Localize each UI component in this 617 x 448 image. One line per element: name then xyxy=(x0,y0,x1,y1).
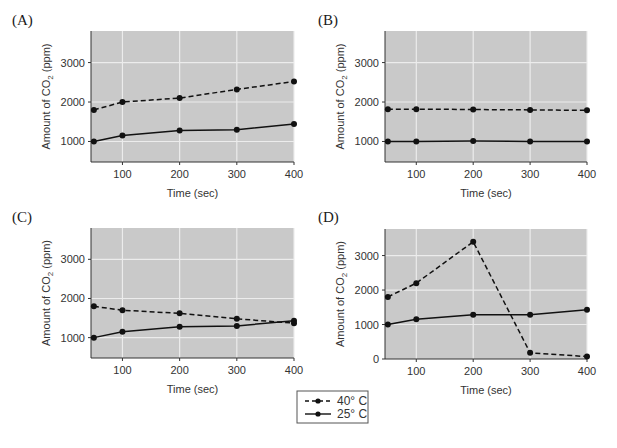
x-axis-label: Time (sec) xyxy=(460,187,512,199)
y-tick-label: 1000 xyxy=(61,135,85,147)
data-point xyxy=(91,303,97,309)
y-tick-label: 2000 xyxy=(61,96,85,108)
data-point xyxy=(413,316,419,322)
chart-panel-d: (D)1002003004000100020003000Time (sec)Am… xyxy=(318,209,596,396)
data-point xyxy=(119,329,125,335)
y-tick-label: 0 xyxy=(373,353,379,365)
data-point xyxy=(177,324,183,330)
data-point xyxy=(234,323,240,329)
data-point xyxy=(413,280,419,286)
x-tick-label: 200 xyxy=(464,168,482,180)
data-point xyxy=(385,138,391,144)
legend-label: 25° C xyxy=(337,407,367,421)
data-point xyxy=(177,127,183,133)
data-point xyxy=(385,106,391,112)
data-point xyxy=(413,138,419,144)
data-point xyxy=(119,99,125,105)
y-tick-label: 3000 xyxy=(61,253,85,265)
x-tick-label: 300 xyxy=(228,168,246,180)
legend-marker xyxy=(315,411,320,416)
y-axis-label: Amount of CO2 (ppm) xyxy=(334,44,349,150)
data-point xyxy=(385,294,391,300)
data-point xyxy=(291,121,297,127)
data-point xyxy=(177,310,183,316)
legend-marker xyxy=(315,398,320,403)
data-point xyxy=(234,316,240,322)
data-point xyxy=(119,307,125,313)
panel-label: (C) xyxy=(12,209,32,226)
data-point xyxy=(291,318,297,324)
y-axis-label: Amount of CO2 (ppm) xyxy=(40,240,55,346)
y-tick-label: 3000 xyxy=(355,57,379,69)
x-tick-label: 100 xyxy=(113,168,131,180)
legend-label: 40° C xyxy=(337,394,367,408)
data-point xyxy=(527,107,533,113)
data-point xyxy=(119,133,125,139)
data-point xyxy=(527,312,533,318)
x-axis-label: Time (sec) xyxy=(167,187,219,199)
data-point xyxy=(527,138,533,144)
data-point xyxy=(584,138,590,144)
x-tick-label: 400 xyxy=(578,168,596,180)
y-tick-label: 2000 xyxy=(355,96,379,108)
x-tick-label: 400 xyxy=(285,364,303,376)
data-point xyxy=(584,354,590,360)
chart-panel-a: (A)100200300400100020003000Time (sec)Amo… xyxy=(12,12,303,199)
y-tick-label: 3000 xyxy=(355,250,379,262)
plot-area xyxy=(385,229,587,359)
data-point xyxy=(527,350,533,356)
data-point xyxy=(291,79,297,85)
x-tick-label: 300 xyxy=(521,365,539,377)
y-tick-label: 1000 xyxy=(61,332,85,344)
y-tick-label: 3000 xyxy=(61,57,85,69)
x-axis-label: Time (sec) xyxy=(460,384,512,396)
y-tick-label: 1000 xyxy=(355,135,379,147)
plot-area xyxy=(91,228,294,358)
data-point xyxy=(584,307,590,313)
x-axis-label: Time (sec) xyxy=(167,383,219,395)
data-point xyxy=(470,239,476,245)
x-tick-label: 200 xyxy=(170,364,188,376)
x-tick-label: 100 xyxy=(113,364,131,376)
panel-label: (A) xyxy=(12,12,33,29)
data-point xyxy=(234,127,240,133)
x-tick-label: 100 xyxy=(407,365,425,377)
legend: 40° C25° C xyxy=(297,391,368,423)
y-axis-label: Amount of CO2 (ppm) xyxy=(40,44,55,150)
data-point xyxy=(91,107,97,113)
y-axis-label: Amount of CO2 (ppm) xyxy=(334,241,349,347)
y-tick-label: 2000 xyxy=(61,292,85,304)
x-tick-label: 300 xyxy=(521,168,539,180)
data-point xyxy=(470,312,476,318)
x-tick-label: 100 xyxy=(407,168,425,180)
data-point xyxy=(413,106,419,112)
data-point xyxy=(177,95,183,101)
panel-label: (B) xyxy=(318,12,338,29)
x-tick-label: 400 xyxy=(285,168,303,180)
panel-label: (D) xyxy=(318,209,339,226)
data-point xyxy=(385,322,391,328)
data-point xyxy=(584,107,590,113)
data-point xyxy=(91,138,97,144)
data-point xyxy=(91,335,97,341)
x-tick-label: 300 xyxy=(228,364,246,376)
data-point xyxy=(470,138,476,144)
x-tick-label: 400 xyxy=(578,365,596,377)
y-tick-label: 1000 xyxy=(355,319,379,331)
y-tick-label: 2000 xyxy=(355,284,379,296)
data-point xyxy=(470,107,476,113)
x-tick-label: 200 xyxy=(464,365,482,377)
chart-panel-c: (C)100200300400100020003000Time (sec)Amo… xyxy=(12,209,303,395)
figure: (A)100200300400100020003000Time (sec)Amo… xyxy=(0,0,617,448)
data-point xyxy=(234,86,240,92)
x-tick-label: 200 xyxy=(170,168,188,180)
chart-panel-b: (B)100200300400100020003000Time (sec)Amo… xyxy=(318,12,596,199)
